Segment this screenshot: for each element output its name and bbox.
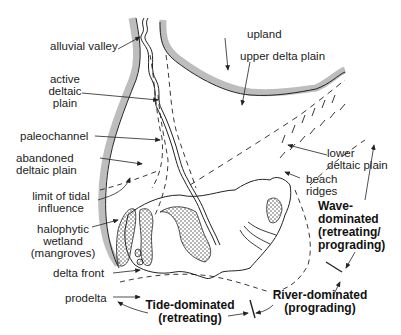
label-upper-delta-plain: upper delta plain	[240, 50, 325, 62]
label-delta-front: delta front	[53, 267, 104, 279]
label-abandoned-deltaic-plain: abandoned deltaic plain	[16, 152, 77, 176]
label-prodelta: prodelta	[65, 292, 107, 304]
label-limit-of-tidal-influence: limit of tidal influence	[28, 190, 94, 214]
label-river-dominated: River-dominated (prograding)	[270, 289, 370, 315]
label-halophytic-wetland: halophytic wetland (mangroves)	[30, 223, 96, 259]
label-upland: upland	[247, 28, 282, 40]
label-wave-dominated: Wave- dominated (retreating/ prograding)	[318, 200, 385, 252]
label-active-deltaic-plain: active deltaic plain	[40, 73, 90, 109]
label-paleochannel: paleochannel	[20, 130, 88, 142]
delta-diagram: alluvial valley upland upper delta plain…	[0, 0, 401, 335]
label-beach-ridges: beach ridges	[306, 173, 337, 197]
label-lower-deltaic-plain: lower deltaic plain	[327, 147, 388, 171]
delta-front-line	[120, 274, 270, 292]
label-tide-dominated: Tide-dominated (retreating)	[145, 299, 235, 325]
halophytic-wetland-1	[117, 209, 136, 266]
label-alluvial-valley: alluvial valley	[50, 40, 118, 52]
